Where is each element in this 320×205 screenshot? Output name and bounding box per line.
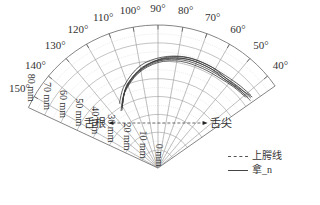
minor-arc	[36, 34, 267, 111]
legend-label: 上腭线	[252, 149, 282, 163]
angle-tick-label: 140°	[25, 59, 46, 71]
angle-tick	[133, 27, 134, 31]
angle-tick	[48, 76, 51, 79]
radius-tick-label: 20 mm	[122, 122, 133, 150]
solid-line-icon	[228, 170, 248, 171]
legend-item-series: 拿_n	[228, 163, 282, 177]
radius-tick-label: 30 mm	[106, 114, 117, 142]
angle-tick-label: 40°	[273, 59, 288, 71]
angle-tick	[247, 58, 250, 61]
radius-tick-label: 0 mm	[154, 144, 165, 167]
arrow-right-icon	[203, 121, 208, 125]
radius-tick-label: 60 mm	[58, 90, 69, 118]
angle-tick-label: 100°	[120, 4, 141, 16]
radius-tick-label: 10 mm	[138, 131, 149, 159]
angle-tick-label: 110°	[93, 11, 114, 23]
angle-tick-label: 120°	[68, 23, 89, 35]
angle-tick	[205, 34, 207, 38]
legend-label: 拿_n	[252, 163, 272, 177]
legend: 上腭线 拿_n	[228, 149, 282, 177]
angle-tick-label: 130°	[45, 39, 66, 51]
angle-tick-label: 70°	[205, 11, 220, 23]
angle-tick-label: 50°	[253, 39, 268, 51]
angle-tick	[109, 34, 111, 38]
series-curve	[119, 56, 251, 104]
angle-tick	[264, 76, 267, 79]
radius-tick-label: 80 mm	[26, 74, 37, 102]
series-curve	[122, 59, 248, 110]
angle-tick	[227, 44, 229, 48]
radius-tick-label: 50 mm	[74, 98, 85, 126]
dashed-line-icon	[228, 156, 248, 157]
angle-tick-label: 80°	[178, 4, 193, 16]
tongue-tip-label: 舌尖	[210, 117, 232, 130]
angle-tick	[182, 27, 183, 31]
tongue-root-label: 舌根	[84, 116, 106, 130]
angle-tick-label: 90°	[150, 2, 165, 14]
angle-tick	[87, 44, 89, 48]
angle-tick-label: 60°	[230, 23, 245, 35]
angle-tick	[66, 58, 69, 61]
radius-tick-label: 70 mm	[42, 82, 53, 110]
legend-item-palate: 上腭线	[228, 149, 282, 163]
